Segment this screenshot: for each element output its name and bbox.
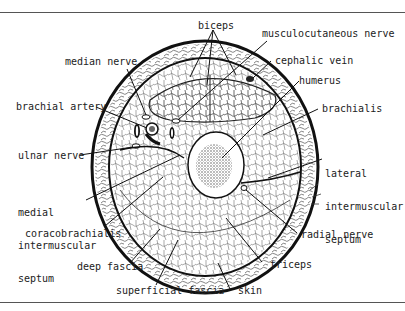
label-brachial-artery: brachial artery xyxy=(16,101,106,112)
label-medial-line2: intermuscular xyxy=(18,240,96,251)
label-coracobrachialis: coracobrachialis xyxy=(25,228,121,239)
label-ulnar-nerve: ulnar nerve xyxy=(18,150,84,161)
label-brachialis: brachialis xyxy=(322,103,382,114)
radial-nerve-dot xyxy=(241,186,247,191)
label-biceps: biceps xyxy=(198,20,234,31)
label-lateral-line1: lateral xyxy=(325,168,403,179)
label-medial-intermuscular-septum: medial intermuscular septum xyxy=(18,185,96,295)
label-median-nerve: median nerve xyxy=(65,56,137,67)
label-skin: skin xyxy=(238,285,262,296)
label-musculocutaneous-nerve: musculocutaneous nerve xyxy=(262,28,394,39)
label-triceps: triceps xyxy=(270,259,312,270)
label-superficial-fascia: superficial fascia xyxy=(116,285,224,296)
label-cephalic-vein: cephalic vein xyxy=(275,55,353,66)
label-medial-line3: septum xyxy=(18,273,96,284)
label-medial-line1: medial xyxy=(18,207,96,218)
label-radial-nerve: radial nerve xyxy=(301,229,373,240)
label-deep-fascia: deep fascia xyxy=(77,261,143,272)
cephalic-vein xyxy=(246,76,254,82)
label-humerus: humerus xyxy=(299,75,341,86)
label-lateral-line2: intermuscular xyxy=(325,201,403,212)
